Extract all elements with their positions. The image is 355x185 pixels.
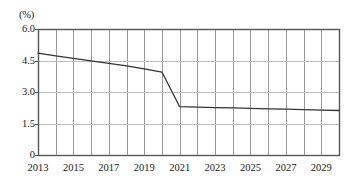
axis-tick-marks (35, 30, 38, 156)
y-tick-label: 4.5 (1, 55, 35, 66)
y-tick-label: 0 (1, 149, 35, 160)
y-tick-label: 6.0 (1, 23, 35, 34)
x-tick-label: 2019 (127, 162, 161, 174)
y-tick-label: 3.0 (1, 86, 35, 97)
horizontal-gridlines (38, 62, 339, 125)
x-tick-label: 2027 (269, 162, 303, 174)
y-tick-label: 1.5 (1, 118, 35, 129)
x-tick-label: 2017 (92, 162, 126, 174)
x-tick-label: 2015 (56, 162, 90, 174)
plot-area (0, 0, 355, 185)
x-tick-label: 2013 (21, 162, 55, 174)
y-axis-tick-labels: 01.53.04.56.0 (0, 0, 35, 185)
x-tick-label: 2025 (233, 162, 267, 174)
x-tick-label: 2021 (163, 162, 197, 174)
x-tick-label: 2023 (198, 162, 232, 174)
x-tick-label: 2029 (304, 162, 338, 174)
line-chart: (%) 01.53.04.56.0 2013201520172019202120… (0, 0, 355, 185)
